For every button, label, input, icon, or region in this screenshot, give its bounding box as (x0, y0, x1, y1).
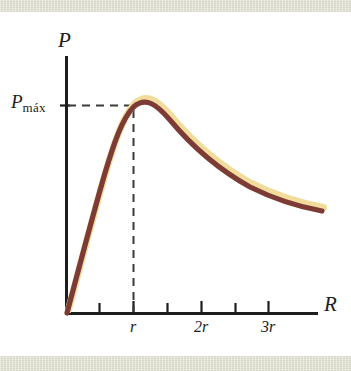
x-axis-ticks (100, 301, 269, 313)
pmax-base-letter: P (11, 91, 23, 112)
figure-canvas: P R Pmáx r 2r 3r (0, 0, 351, 371)
power-curve (67, 102, 322, 313)
y-axis-value-label-pmax: Pmáx (11, 92, 46, 114)
pmax-subscript: máx (23, 100, 46, 115)
x-axis-label: R (324, 294, 337, 315)
x-tick-label-3r: 3r (253, 319, 283, 335)
y-axis-label: P (58, 30, 71, 51)
x-tick-label-2r: 2r (186, 319, 216, 335)
plot-area (0, 0, 351, 371)
x-tick-label-r: r (118, 319, 148, 335)
